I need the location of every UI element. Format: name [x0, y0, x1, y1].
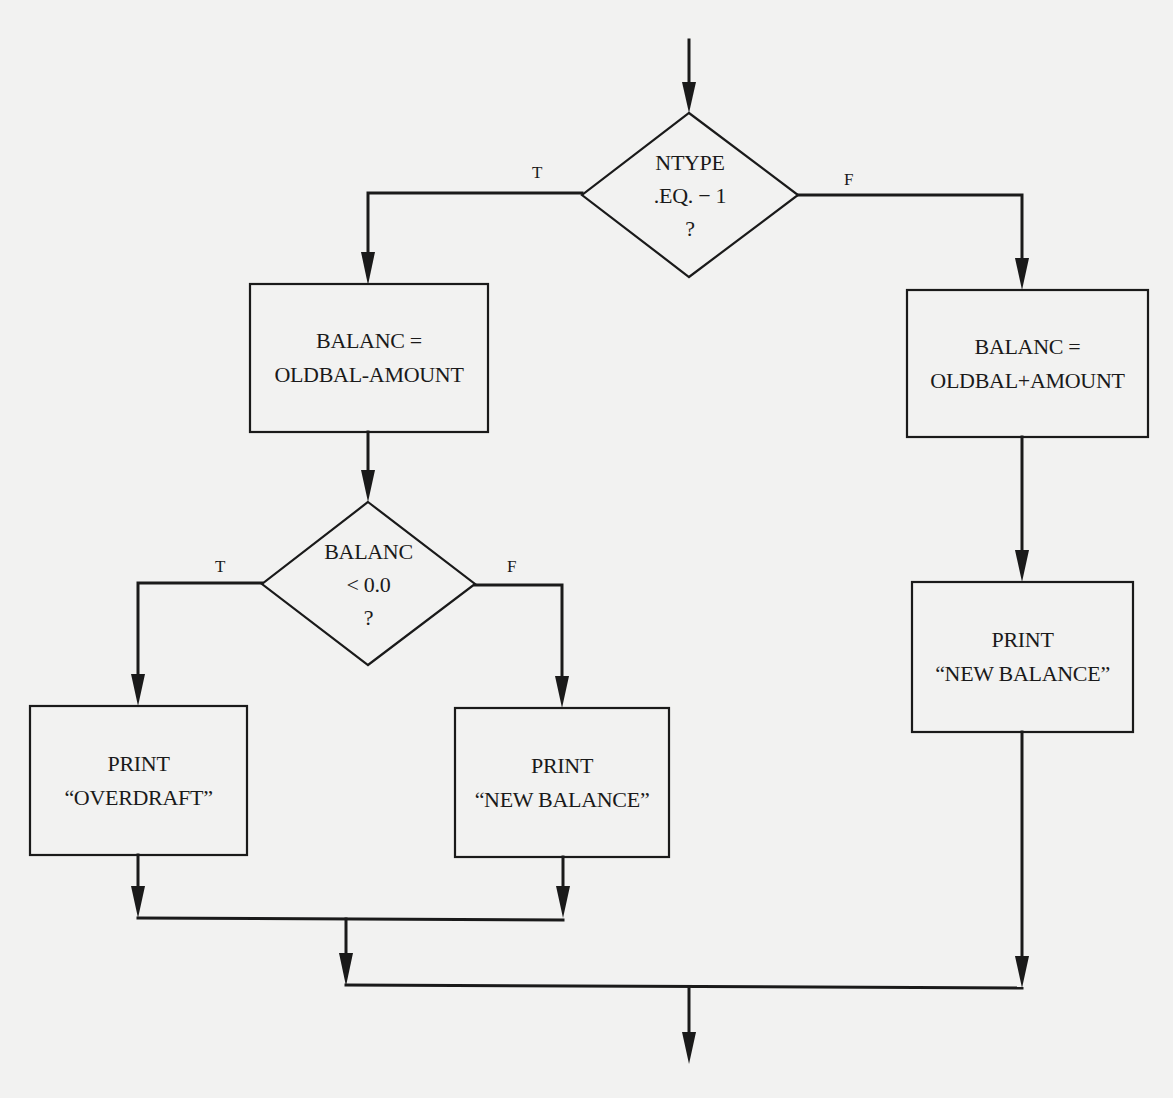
edge-d2-true-to-b3 [131, 583, 262, 706]
process-line: “NEW BALANCE” [475, 783, 650, 817]
edge-b3-b4-merge [131, 855, 570, 986]
arrowhead-icon [1015, 258, 1029, 290]
arrowhead-icon [361, 470, 375, 502]
edge-label-d1-false: F [844, 170, 853, 190]
edge-d1-true-to-b1 [361, 193, 582, 285]
arrowhead-icon [1015, 550, 1029, 582]
process-line: BALANC = [975, 330, 1081, 364]
edge-d2-false-to-b4 [475, 585, 569, 708]
decision-line: .EQ. − 1 [654, 179, 726, 212]
process-line: PRINT [107, 747, 169, 781]
decision-text-ntype: NTYPE .EQ. − 1 ? [582, 143, 798, 247]
arrowhead-icon [556, 886, 570, 918]
arrowhead-icon [131, 674, 145, 706]
process-line: PRINT [991, 623, 1053, 657]
decision-line: ? [364, 601, 373, 634]
process-text-print-new-balance-left: PRINT “NEW BALANCE” [455, 708, 669, 857]
process-line: OLDBAL-AMOUNT [274, 358, 463, 392]
arrowhead-icon [682, 1032, 696, 1064]
edge-b2-to-b5 [1015, 437, 1029, 582]
arrowhead-icon [555, 676, 569, 708]
decision-line: NTYPE [655, 146, 724, 179]
process-line: “OVERDRAFT” [64, 781, 212, 815]
process-line: OLDBAL+AMOUNT [930, 364, 1124, 398]
edge-merge-to-exit [346, 985, 1022, 1064]
process-text-oldbal-minus-amount: BALANC = OLDBAL-AMOUNT [250, 284, 488, 432]
arrowhead-icon [361, 252, 375, 285]
arrowhead-icon [131, 886, 145, 918]
process-text-print-overdraft: PRINT “OVERDRAFT” [30, 706, 247, 855]
edge-label-d1-true: T [532, 163, 542, 183]
process-line: BALANC = [316, 324, 422, 358]
edge-d1-false-to-b2 [798, 195, 1029, 290]
decision-line: BALANC [324, 535, 413, 568]
arrowhead-icon [339, 953, 353, 986]
process-text-oldbal-plus-amount: BALANC = OLDBAL+AMOUNT [907, 290, 1148, 437]
process-line: PRINT [531, 749, 593, 783]
edge-label-d2-false: F [507, 557, 516, 577]
decision-text-balanc-negative: BALANC < 0.0 ? [262, 532, 475, 636]
process-text-print-new-balance-right: PRINT “NEW BALANCE” [912, 582, 1133, 732]
edge-b5-to-merge [1015, 732, 1029, 988]
edge-b1-to-d2 [361, 432, 375, 502]
edge-entry-to-d1 [682, 40, 696, 113]
arrowhead-icon [1015, 956, 1029, 988]
process-line: “NEW BALANCE” [935, 657, 1110, 691]
edge-label-d2-true: T [215, 557, 225, 577]
arrowhead-icon [682, 82, 696, 113]
decision-line: ? [685, 212, 694, 245]
decision-line: < 0.0 [347, 568, 391, 601]
